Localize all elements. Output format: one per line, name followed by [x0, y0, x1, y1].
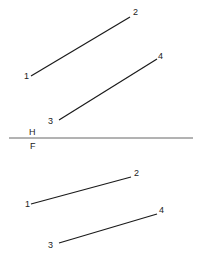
top-label-2: 2	[133, 7, 138, 17]
front-label-4: 4	[159, 205, 164, 215]
folding-line-group: H F	[9, 127, 193, 151]
front-line-3-4	[59, 214, 157, 243]
top-view: 1 2 3 4	[24, 7, 163, 126]
front-label-2: 2	[134, 168, 139, 178]
label-f: F	[30, 141, 36, 151]
front-view: 1 2 3 4	[25, 168, 164, 250]
label-h: H	[29, 127, 36, 137]
top-label-3: 3	[48, 116, 53, 126]
front-line-1-2	[31, 177, 131, 204]
top-label-4: 4	[158, 51, 163, 61]
top-line-1-2	[31, 17, 130, 76]
front-label-1: 1	[25, 199, 30, 209]
front-label-3: 3	[48, 240, 53, 250]
top-label-1: 1	[24, 71, 29, 81]
projection-diagram: 1 2 3 4 H F 1 2 3 4	[0, 0, 203, 256]
top-line-3-4	[59, 59, 157, 120]
